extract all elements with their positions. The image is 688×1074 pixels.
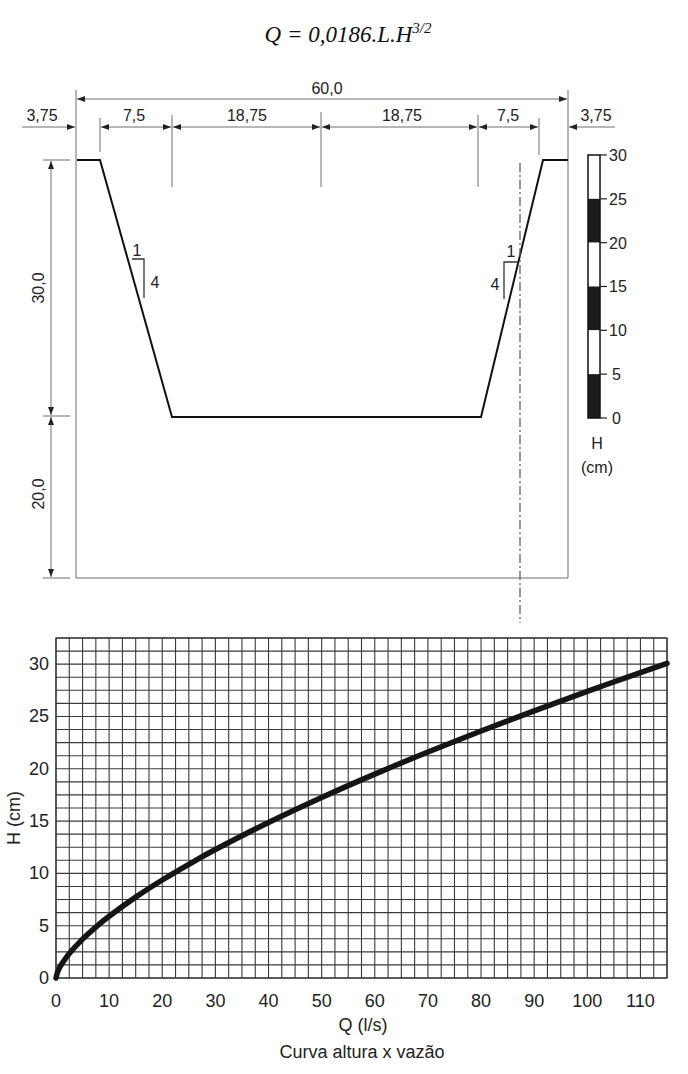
y-tick-label: 5 <box>39 916 49 936</box>
height-label-1: 30,0 <box>30 272 47 303</box>
x-tick-label: 30 <box>205 991 225 1011</box>
y-tick-label: 25 <box>29 706 49 726</box>
x-tick-label: 60 <box>365 991 385 1011</box>
x-tick-label: 70 <box>418 991 438 1011</box>
width-label-3: 18,75 <box>227 107 267 124</box>
x-tick-label: 0 <box>51 991 61 1011</box>
formula-exponent: 3/2 <box>411 20 432 36</box>
staff-gauge: 30 25 20 15 10 5 0 H (cm) <box>581 147 627 476</box>
width-label-5: 7,5 <box>497 107 519 124</box>
x-tick-label: 100 <box>572 991 602 1011</box>
gauge-label: 10 <box>609 322 627 339</box>
x-tick-label: 50 <box>312 991 332 1011</box>
gauge-segment-10-15 <box>588 286 600 330</box>
y-axis-tick-labels: 051015202530 <box>29 654 49 988</box>
y-tick-label: 15 <box>29 811 49 831</box>
y-tick-label: 10 <box>29 863 49 883</box>
gauge-segment-20-25 <box>588 199 600 243</box>
x-axis-title: Q (l/s) <box>339 1015 388 1035</box>
width-label-2: 7,5 <box>123 107 145 124</box>
height-label-2: 20,0 <box>30 478 47 509</box>
width-label-6: 3,75 <box>580 107 611 124</box>
slope-right-rise: 4 <box>491 276 500 293</box>
x-tick-label: 80 <box>471 991 491 1011</box>
x-tick-label: 40 <box>259 991 279 1011</box>
slope-left-rise: 4 <box>151 274 160 291</box>
x-tick-label: 90 <box>524 991 544 1011</box>
chart-caption: Curva altura x vazão <box>279 1042 444 1062</box>
slope-right-run: 1 <box>507 243 516 260</box>
rating-curve-chart: 0102030405060708090100110 051015202530 H… <box>4 638 667 1062</box>
x-tick-label: 10 <box>99 991 119 1011</box>
y-tick-label: 20 <box>29 759 49 779</box>
gauge-unit: (cm) <box>581 459 613 476</box>
gauge-segment-5-10 <box>588 330 600 374</box>
gauge-segment-0-5 <box>588 374 600 418</box>
cross-section-drawing: 60,0 3,75 7,5 18,75 18,75 7,5 3,75 30,0 … <box>22 80 615 623</box>
y-tick-label: 0 <box>39 968 49 988</box>
x-tick-label: 110 <box>626 991 655 1011</box>
gauge-label: 5 <box>612 366 621 383</box>
gauge-label: 25 <box>609 191 627 208</box>
width-label-1: 3,75 <box>26 107 57 124</box>
gauge-segment-25-30 <box>588 155 600 199</box>
gauge-label: 20 <box>609 235 627 252</box>
gauge-symbol: H <box>591 435 603 452</box>
formula-title: Q = 0,0186.L.H3/2 <box>265 20 432 47</box>
overall-width-label: 60,0 <box>311 80 342 97</box>
gauge-label: 15 <box>609 278 627 295</box>
gauge-label: 30 <box>609 147 627 164</box>
x-tick-label: 20 <box>152 991 172 1011</box>
width-label-4: 18,75 <box>382 107 422 124</box>
gauge-segment-15-20 <box>588 243 600 287</box>
y-axis-title: H (cm) <box>4 791 24 845</box>
y-tick-label: 30 <box>29 654 49 674</box>
formula-main: Q = 0,0186.L.H <box>265 22 414 47</box>
chart-grid <box>56 638 667 978</box>
x-axis-tick-labels: 0102030405060708090100110 <box>51 991 655 1011</box>
slope-left-run: 1 <box>133 242 142 259</box>
flume-figure: Q = 0,0186.L.H3/2 60,0 3,75 7,5 18,75 18… <box>0 0 688 1074</box>
gauge-label: 0 <box>612 410 621 427</box>
